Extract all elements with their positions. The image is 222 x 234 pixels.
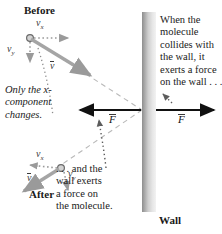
velocity-x-arrow-after — [30, 165, 57, 168]
molecule-wall-collision-figure: Before After Wall Only the x- component … — [0, 0, 222, 234]
label-v-before: v — [50, 60, 54, 71]
label-vx-after: vx — [36, 148, 44, 162]
label-force-on-molecule: F — [109, 113, 116, 125]
label-force-on-wall: F — [178, 113, 185, 125]
note-only-x-component: Only the x- component changes. — [5, 84, 52, 121]
note-wall-exerts-force: . . . and the wall exerts a force on the… — [56, 163, 113, 213]
label-vy-before: vy — [7, 43, 15, 57]
velocity-resultant-arrow-before — [31, 39, 90, 75]
leader-bottom-to-force — [99, 120, 106, 168]
after-title: After — [29, 188, 54, 201]
label-vy-after: vy — [68, 168, 76, 182]
leader-right-to-force — [163, 94, 172, 103]
label-v-after: v — [27, 172, 31, 183]
wall-label: Wall — [159, 214, 181, 227]
outgoing-trajectory-dashed — [58, 110, 142, 167]
wall-graphic — [142, 12, 156, 212]
label-vx-before: vx — [36, 17, 44, 31]
note-molecule-collides: When the molecule collides with the wall… — [160, 14, 222, 88]
before-title: Before — [24, 4, 55, 17]
